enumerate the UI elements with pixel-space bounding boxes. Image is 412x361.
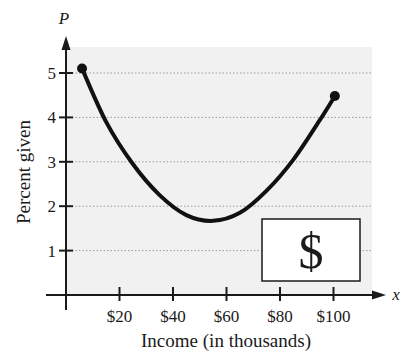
- x-axis-title: Income (in thousands): [141, 330, 311, 352]
- y-tick-label: 3: [48, 153, 57, 172]
- dollar-sign-icon: $: [299, 223, 324, 279]
- x-tick-label: $60: [214, 307, 240, 326]
- x-axis-arrow-icon: [372, 291, 386, 300]
- x-tick-label: $80: [267, 307, 293, 326]
- y-tick-label: 2: [48, 197, 57, 216]
- endpoint-end-dot: [330, 91, 340, 101]
- x-tick-label: $40: [160, 307, 186, 326]
- x-tick-label: $20: [107, 307, 133, 326]
- endpoint-start-dot: [77, 64, 87, 74]
- x-tick-label: $100: [317, 307, 351, 326]
- y-tick-label: 5: [48, 64, 57, 83]
- y-axis-variable: P: [58, 9, 69, 28]
- y-axis-arrow-icon: [62, 36, 71, 50]
- y-tick-label: 4: [48, 108, 57, 127]
- y-axis-title: Percent given: [13, 120, 34, 224]
- y-tick-label: 1: [48, 242, 57, 261]
- chart: 12345 $20$40$60$80$100 P x Income (in th…: [0, 0, 412, 361]
- x-axis-variable: x: [391, 285, 400, 304]
